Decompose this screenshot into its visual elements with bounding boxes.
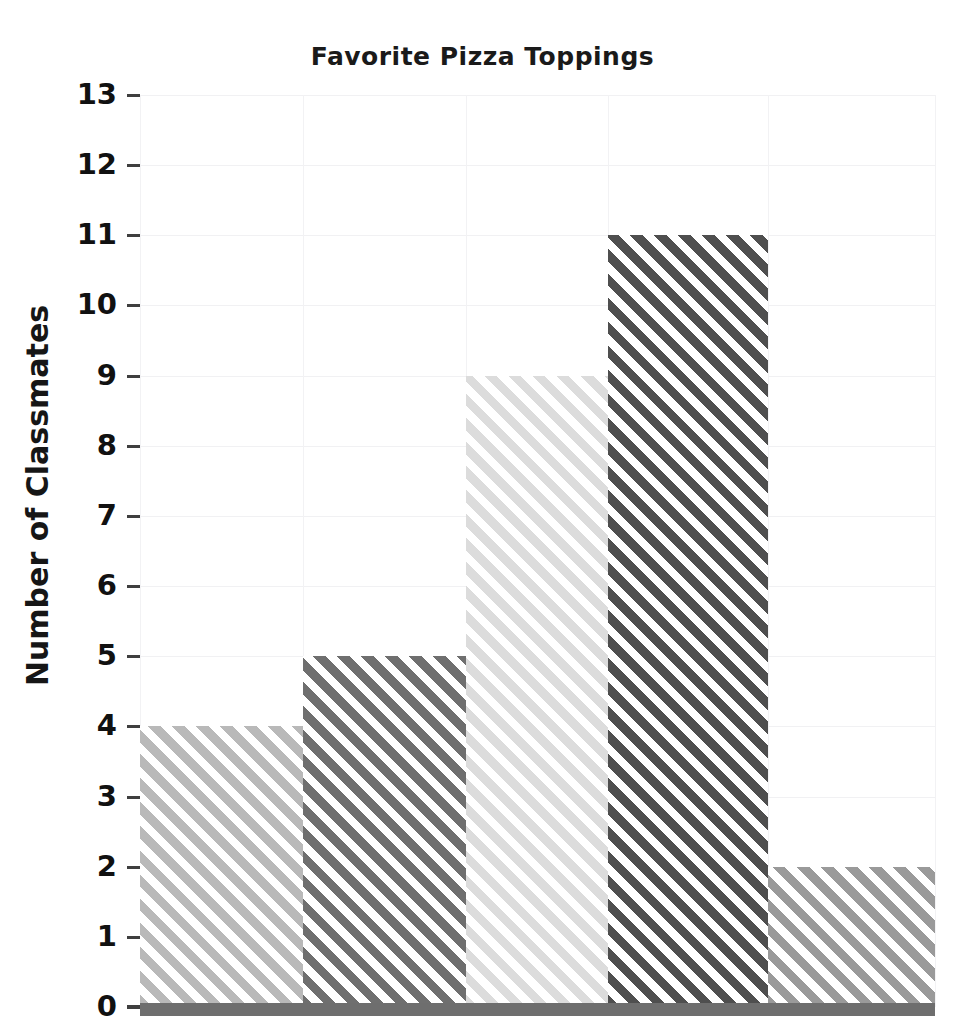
y-tick-label-5: 5 <box>63 641 117 670</box>
y-tick-zero-mark <box>127 1005 140 1008</box>
y-tick-label-3: 3 <box>63 782 117 811</box>
x-axis-spine <box>140 1003 935 1016</box>
plot-area <box>140 95 935 1007</box>
gridline-h-12 <box>140 165 935 166</box>
y-tick-mark-1 <box>127 936 140 939</box>
y-tick-mark-4 <box>127 725 140 728</box>
y-tick-label-6: 6 <box>63 571 117 600</box>
y-tick-label-10: 10 <box>63 290 117 319</box>
y-tick-label-7: 7 <box>63 501 117 530</box>
y-tick-label-1: 1 <box>63 922 117 951</box>
chart-title: Favorite Pizza Toppings <box>0 42 965 71</box>
gridline-h-13 <box>140 95 935 96</box>
bar-1 <box>140 726 303 1007</box>
y-tick-mark-11 <box>127 234 140 237</box>
y-tick-mark-10 <box>127 304 140 307</box>
y-tick-label-12: 12 <box>63 150 117 179</box>
y-tick-label-9: 9 <box>63 361 117 390</box>
y-tick-mark-7 <box>127 515 140 518</box>
y-tick-label-0: 0 <box>63 992 117 1016</box>
gridline-h-10 <box>140 305 935 306</box>
bar-4 <box>608 235 768 1007</box>
chart-figure: Favorite Pizza Toppings Number of Classm… <box>0 0 965 1016</box>
y-tick-mark-5 <box>127 655 140 658</box>
y-tick-label-2: 2 <box>63 852 117 881</box>
bar-3 <box>466 376 608 1007</box>
y-tick-label-11: 11 <box>63 220 117 249</box>
y-tick-mark-12 <box>127 164 140 167</box>
y-tick-mark-13 <box>127 94 140 97</box>
y-tick-mark-3 <box>127 796 140 799</box>
y-axis-label: Number of Classmates <box>20 216 55 776</box>
y-tick-mark-6 <box>127 585 140 588</box>
gridline-v-5 <box>935 95 936 1007</box>
gridline-h-11 <box>140 235 935 236</box>
bar-2 <box>303 656 466 1007</box>
y-tick-mark-9 <box>127 375 140 378</box>
y-tick-mark-2 <box>127 866 140 869</box>
y-tick-label-4: 4 <box>63 711 117 740</box>
y-tick-mark-8 <box>127 445 140 448</box>
bar-5 <box>768 867 935 1007</box>
y-tick-label-8: 8 <box>63 431 117 460</box>
y-tick-label-13: 13 <box>63 80 117 109</box>
